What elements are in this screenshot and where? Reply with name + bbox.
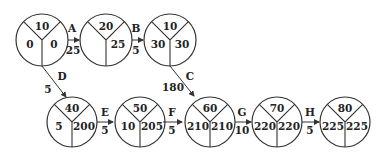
- node-8-left: 225: [322, 120, 344, 132]
- node-5: 50 10 205: [115, 97, 165, 147]
- node-8-id: 80: [338, 102, 353, 114]
- node-7: 70 220 220: [252, 97, 302, 147]
- node-1: 10 0 0: [16, 14, 68, 66]
- edge-f-duration: 5: [168, 124, 175, 136]
- node-6: 60 210 210: [185, 97, 235, 147]
- edge-b-activity: B: [132, 22, 141, 34]
- node-7-id: 70: [270, 102, 285, 114]
- node-5-left: 10: [121, 120, 136, 132]
- edge-c: C 180: [162, 66, 194, 96]
- network-diagram: A 25 B 5 C 180 D 5 E 5 F 5 G 10 H 5: [0, 0, 386, 161]
- edge-e-duration: 5: [101, 124, 108, 136]
- node-7-left: 220: [254, 120, 276, 132]
- node-3: 10 30 30: [144, 14, 196, 66]
- node-3-right: 30: [175, 38, 190, 50]
- node-8: 80 225 225: [320, 97, 370, 147]
- node-4-id: 40: [65, 102, 80, 114]
- node-7-right: 220: [278, 120, 300, 132]
- edge-e-activity: E: [101, 106, 109, 118]
- node-3-left: 30: [151, 38, 166, 50]
- node-6-id: 60: [203, 102, 218, 114]
- node-6-right: 210: [211, 120, 233, 132]
- edge-e: E 5: [97, 106, 113, 136]
- edge-b: B 5: [132, 22, 143, 56]
- edge-a-activity: A: [67, 22, 77, 34]
- node-4-left: 5: [55, 120, 62, 132]
- edge-d-activity: D: [57, 70, 66, 82]
- node-1-left: 0: [26, 38, 33, 50]
- edge-g-duration: 10: [235, 124, 250, 136]
- edge-f-activity: F: [168, 106, 176, 118]
- edge-h: H 5: [302, 106, 319, 136]
- edge-g: G 10: [235, 106, 251, 136]
- node-2: 20 25: [80, 14, 132, 66]
- node-2-right: 25: [111, 38, 126, 50]
- node-5-right: 205: [141, 120, 163, 132]
- edge-c-activity: C: [186, 70, 194, 82]
- node-3-id: 10: [163, 20, 178, 32]
- edge-f: F 5: [163, 106, 182, 136]
- node-8-right: 225: [346, 120, 368, 132]
- edge-h-duration: 5: [306, 124, 313, 136]
- node-6-left: 210: [187, 120, 209, 132]
- edge-d: D 5: [42, 66, 67, 97]
- edge-h-activity: H: [305, 106, 315, 118]
- node-1-right: 0: [50, 38, 57, 50]
- edge-g-activity: G: [238, 106, 247, 118]
- node-2-id: 20: [99, 20, 114, 32]
- edge-b-duration: 5: [132, 44, 139, 56]
- edge-d-duration: 5: [44, 83, 51, 95]
- node-1-id: 10: [35, 20, 50, 32]
- node-4: 40 5 200: [47, 97, 97, 147]
- node-5-id: 50: [133, 102, 148, 114]
- edge-c-duration: 180: [162, 81, 184, 93]
- node-4-right: 200: [73, 120, 95, 132]
